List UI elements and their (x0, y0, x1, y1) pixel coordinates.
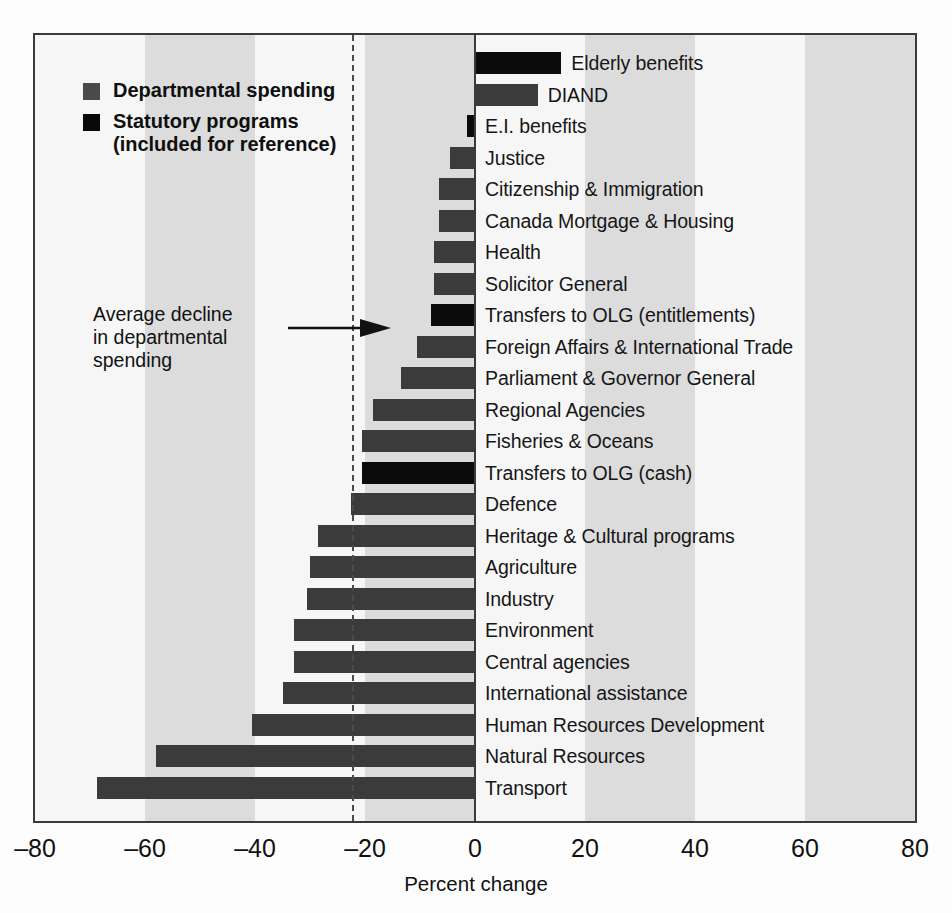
bar-international-assistance (283, 682, 476, 704)
bar-transport (97, 777, 475, 799)
bar-citizenship-immigration (439, 178, 475, 200)
bar-label: Fisheries & Oceans (485, 428, 653, 456)
bar-label: Human Resources Development (485, 712, 764, 740)
bar-label: Canada Mortgage & Housing (485, 208, 734, 236)
bar-transfers-to-olg-cash (362, 462, 475, 484)
bar-agriculture (310, 556, 475, 578)
legend-swatch-departmental-icon (83, 83, 100, 100)
x-tick-label: 60 (791, 834, 819, 863)
bar-label: Natural Resources (485, 743, 645, 771)
annotation-average-decline: Average declinein departmentalspending (93, 303, 293, 372)
plot-area: Elderly benefitsDIANDE.I. benefitsJustic… (33, 33, 917, 823)
bar-label: Solicitor General (485, 271, 627, 299)
bar-human-resources-development (252, 714, 475, 736)
bar-label: Parliament & Governor General (485, 365, 755, 393)
bar-label: Agriculture (485, 554, 577, 582)
annotation-arrow-icon (288, 318, 393, 338)
zero-axis-line (474, 35, 476, 821)
bar-industry (307, 588, 475, 610)
bar-label: Environment (485, 617, 593, 645)
bar-label: Regional Agencies (485, 397, 645, 425)
bar-label: Transport (485, 775, 567, 803)
bar-label: International assistance (485, 680, 687, 708)
bar-label: Foreign Affairs & International Trade (485, 334, 793, 362)
bar-natural-resources (156, 745, 475, 767)
bar-environment (294, 619, 476, 641)
x-tick-label: 20 (571, 834, 599, 863)
bar-label: Justice (485, 145, 545, 173)
x-tick-label: 80 (901, 834, 929, 863)
bar-label: E.I. benefits (485, 113, 587, 141)
x-tick-label: –20 (344, 834, 386, 863)
bar-heritage-cultural-programs (318, 525, 475, 547)
bar-parliament-governor-general (401, 367, 475, 389)
x-tick-label: 0 (468, 834, 482, 863)
bar-label: Central agencies (485, 649, 630, 677)
bar-regional-agencies (373, 399, 475, 421)
legend: Departmental spending Statutory programs… (83, 79, 413, 164)
legend-swatch-statutory-icon (83, 114, 100, 131)
bar-label: Health (485, 239, 541, 267)
x-tick-label: –80 (14, 834, 56, 863)
x-axis-ticks: –80–60–40–20020406080 (0, 834, 952, 868)
bar-label: Citizenship & Immigration (485, 176, 704, 204)
bar-elderly-benefits (475, 52, 561, 74)
bar-solicitor-general (434, 273, 475, 295)
bar-label: Transfers to OLG (cash) (485, 460, 692, 488)
legend-item-statutory: Statutory programs(included for referenc… (83, 110, 413, 157)
bar-label: Industry (485, 586, 554, 614)
legend-label-departmental: Departmental spending (113, 79, 335, 103)
bar-health (434, 241, 475, 263)
bar-foreign-affairs-international-trade (417, 336, 475, 358)
chart-figure: Elderly benefitsDIANDE.I. benefitsJustic… (0, 0, 952, 913)
x-tick-label: –60 (124, 834, 166, 863)
bar-label: Heritage & Cultural programs (485, 523, 735, 551)
bar-justice (450, 147, 475, 169)
bar-label: Defence (485, 491, 557, 519)
bar-central-agencies (294, 651, 476, 673)
x-tick-label: –40 (234, 834, 276, 863)
bar-fisheries-oceans (362, 430, 475, 452)
bar-diand (475, 84, 538, 106)
legend-item-departmental: Departmental spending (83, 79, 413, 103)
bar-label: DIAND (548, 82, 608, 110)
bar-transfers-to-olg-entitlements (431, 304, 475, 326)
bar-defence (351, 493, 475, 515)
legend-label-statutory: Statutory programs(included for referenc… (113, 110, 336, 157)
bar-canada-mortgage-housing (439, 210, 475, 232)
bar-label: Elderly benefits (571, 50, 703, 78)
bar-label: Transfers to OLG (entitlements) (485, 302, 755, 330)
x-tick-label: 40 (681, 834, 709, 863)
x-axis-label: Percent change (0, 872, 952, 896)
